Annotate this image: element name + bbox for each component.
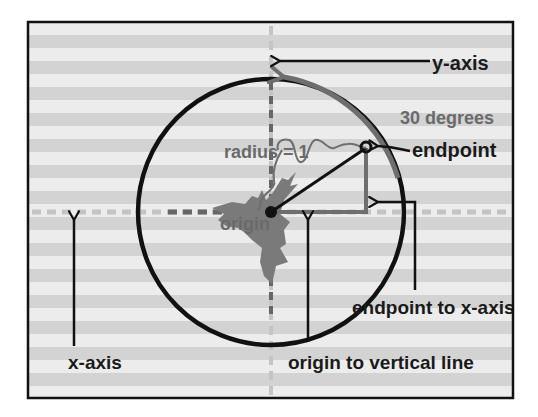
endpoint-to-x-axis-label: endpoint to x-axis	[352, 297, 515, 318]
x-axis-label: x-axis	[68, 352, 122, 373]
origin-label: origin	[220, 214, 270, 234]
origin-to-vertical-line-label: origin to vertical line	[288, 352, 474, 373]
unit-circle-diagram: y-axis 30 degrees endpoint radius = 1 or…	[0, 0, 538, 417]
angle-label: 30 degrees	[400, 108, 494, 128]
endpoint-label: endpoint	[412, 139, 497, 161]
y-axis-label: y-axis	[432, 52, 489, 74]
radius-label: radius = 1	[224, 142, 309, 162]
